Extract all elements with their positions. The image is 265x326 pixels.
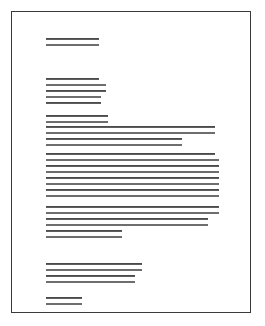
page-frame-border [11,11,251,313]
document-text-area [12,12,252,314]
signature-block [12,12,252,314]
scanned-document-page [0,0,265,326]
text-line [46,303,82,305]
text-line [46,297,82,299]
